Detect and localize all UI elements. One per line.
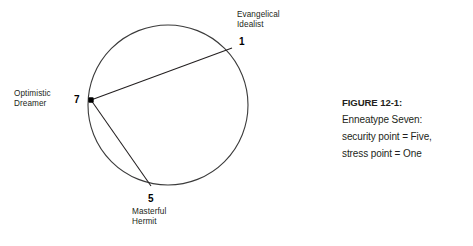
node-marker-seven [88,97,93,102]
enneagram-circle [88,25,248,185]
figure-caption-line-3: stress point = One [342,145,467,162]
figure-caption-title: FIGURE 12-1: [342,94,467,111]
figure-caption-line-2: security point = Five, [342,128,467,145]
figure-caption: FIGURE 12-1: Enneatype Seven: security p… [342,94,467,162]
figure-container: Evangelical Idealist 1 Optimistic Dreame… [0,0,473,246]
node-label-seven-name: Optimistic Dreamer [14,89,70,110]
connection-line-seven-to-five [91,100,151,186]
node-label-seven-number: 7 [74,94,80,105]
node-label-one-number: 1 [239,36,245,47]
node-label-five-number: 5 [148,193,154,204]
figure-caption-line-1: Enneatype Seven: [342,111,467,128]
node-label-five-name: Masterful Hermit [132,207,166,228]
node-label-one-name: Evangelical Idealist [237,10,280,31]
connection-line-seven-to-one [91,48,232,100]
